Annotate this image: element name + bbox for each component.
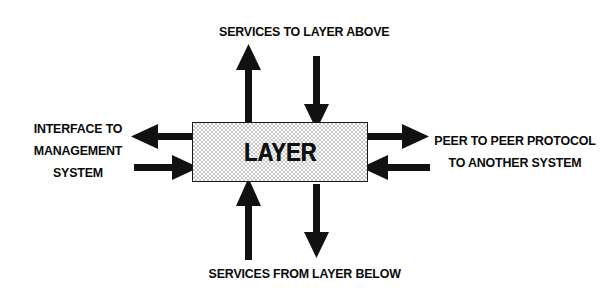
arrow-bottom-incoming — [236, 178, 261, 260]
arrow-right-incoming — [361, 155, 430, 180]
arrow-left-incoming — [134, 155, 199, 180]
layer-box: LAYER — [192, 122, 368, 182]
arrow-top-outgoing — [236, 44, 261, 124]
arrow-top-incoming — [304, 56, 329, 130]
arrow-right-outgoing — [360, 124, 429, 149]
arrow-bottom-outgoing — [304, 184, 329, 258]
diagram-canvas: LAYER SERVICES TO LAYER ABOVE SERVICES F… — [0, 0, 611, 299]
layer-box-label: LAYER — [244, 138, 317, 167]
